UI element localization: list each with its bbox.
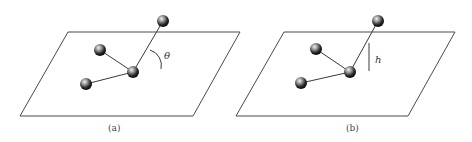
caption-a: (a) <box>108 123 120 133</box>
bond-lower-left-a <box>86 72 133 84</box>
atom-top-b <box>372 15 384 27</box>
diagram-canvas: θ (a) h (b) <box>0 0 472 142</box>
atom-upper-left-b <box>310 43 322 55</box>
panel-b: h (b) <box>236 15 455 133</box>
atom-upper-left-a <box>94 44 106 56</box>
caption-b: (b) <box>346 123 359 133</box>
height-label: h <box>375 54 381 65</box>
panel-a: θ (a) <box>20 15 240 133</box>
bond-top-a <box>133 21 163 72</box>
atom-lower-left-b <box>295 77 307 89</box>
angle-arc-theta <box>150 50 161 69</box>
bond-lower-left-b <box>301 72 350 83</box>
atom-center-a <box>127 66 139 78</box>
theta-label: θ <box>164 50 170 61</box>
atom-lower-left-a <box>80 78 92 90</box>
bond-top-b <box>350 21 378 72</box>
bond-upper-left-b <box>316 49 350 72</box>
atom-center-b <box>344 66 356 78</box>
atom-top-a <box>157 15 169 27</box>
